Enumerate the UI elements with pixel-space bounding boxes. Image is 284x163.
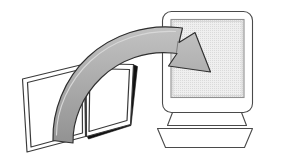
illustration-canvas: An open book with a large curved gray ar… bbox=[0, 0, 284, 163]
book-to-computer-illustration bbox=[0, 0, 284, 163]
monitor-base bbox=[158, 129, 253, 148]
monitor-neck bbox=[168, 113, 247, 126]
